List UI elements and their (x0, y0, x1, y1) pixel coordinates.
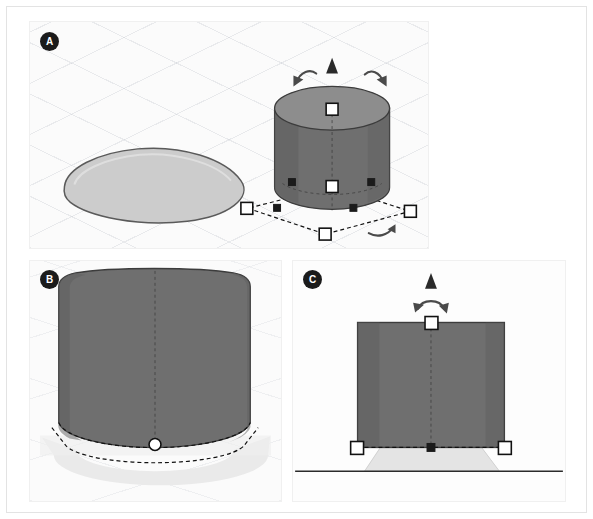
cylinder-shading-right-c (486, 322, 505, 447)
scale-handle-top-c[interactable] (425, 317, 438, 330)
scale-handle-right[interactable] (404, 205, 416, 217)
panel-b-scene (30, 261, 281, 501)
scale-handle-black-3[interactable] (274, 204, 281, 211)
origin-point-handle[interactable] (149, 439, 161, 451)
rotation-arrow-right-icon[interactable] (365, 72, 387, 87)
scale-handle-bottom-left-c[interactable] (351, 441, 364, 454)
cylinder-shading-left-c (358, 322, 380, 447)
panel-label-badge-c: C (303, 270, 322, 289)
panel-a-scene (30, 22, 428, 248)
panel-c-scene (293, 261, 565, 501)
scale-handle-center[interactable] (326, 181, 338, 193)
scale-handle-top[interactable] (326, 103, 338, 115)
rotation-arrow-bottom-icon[interactable] (369, 224, 396, 235)
scale-handle-black-1[interactable] (288, 179, 295, 186)
up-arrow-icon[interactable] (326, 58, 338, 74)
scale-handle-bottom-right-c[interactable] (498, 441, 511, 454)
panel-c[interactable]: C (292, 260, 566, 502)
scale-handle-black-2[interactable] (368, 179, 375, 186)
scale-handle-left[interactable] (241, 202, 253, 214)
panel-b[interactable]: B (29, 260, 282, 502)
egg-outline-shape[interactable] (64, 148, 244, 223)
scale-handle-black-c[interactable] (427, 443, 435, 451)
panel-a[interactable]: A (29, 21, 429, 249)
rotation-arrow-left-icon[interactable] (293, 71, 316, 86)
figure-frame: A (6, 6, 587, 513)
up-arrow-icon-c[interactable] (425, 273, 437, 289)
panel-label-badge-a: A (40, 32, 59, 51)
cylinder-solid-zoom[interactable] (58, 268, 250, 447)
scale-handle-front[interactable] (319, 228, 331, 240)
panel-label-badge-b: B (40, 270, 59, 289)
scale-handle-black-4[interactable] (350, 204, 357, 211)
rotation-arrow-icon-c[interactable] (413, 301, 449, 313)
